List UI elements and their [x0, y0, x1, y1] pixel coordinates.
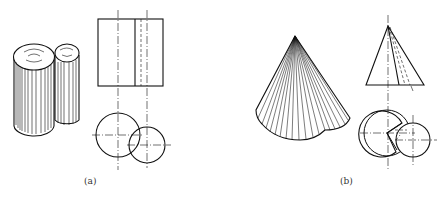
panel-a-label: (a) — [84, 176, 96, 186]
isometric-cone — [256, 36, 350, 140]
engineering-drawing — [0, 0, 443, 199]
panel-b-label: (b) — [340, 176, 353, 186]
front-view-a — [98, 10, 163, 170]
panel-b — [256, 15, 437, 170]
top-view-a — [92, 113, 171, 163]
panel-a — [14, 10, 172, 170]
isometric-cylinders — [14, 44, 80, 136]
top-view-b — [359, 110, 437, 167]
